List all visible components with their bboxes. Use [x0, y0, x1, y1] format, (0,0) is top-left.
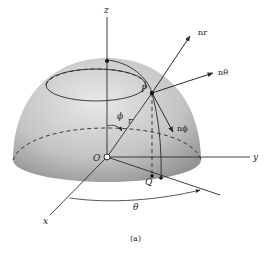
theta-label: θ	[133, 202, 139, 212]
spherical-coordinates-diagram: z y x O P Q r ϕ θ nr nθ nϕ (a)	[0, 0, 275, 254]
figure-caption: (a)	[130, 234, 141, 243]
x-axis-label: x	[43, 216, 48, 226]
n-phi-label: nϕ	[177, 124, 188, 133]
theta-arc	[70, 190, 200, 201]
origin-label: O	[93, 153, 101, 163]
point-p-label: P	[140, 84, 148, 94]
z-axis-label: z	[103, 5, 109, 15]
point-q-label: Q	[145, 177, 153, 187]
radius-label: r	[128, 116, 133, 126]
y-axis-label: y	[252, 152, 259, 162]
origin-point	[104, 154, 110, 160]
point-p	[150, 91, 154, 95]
phi-label: ϕ	[117, 111, 123, 121]
meridian-base-point	[159, 176, 163, 180]
z-axis-top-point	[105, 59, 109, 63]
n-theta-label: nθ	[218, 68, 228, 77]
n-r-label: nr	[198, 28, 207, 37]
